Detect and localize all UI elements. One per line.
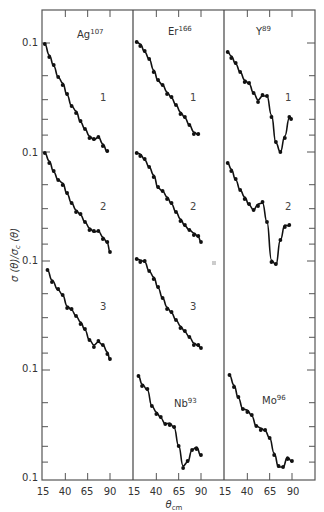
label-mo96: Mo96 <box>262 394 286 406</box>
data-point <box>283 136 287 140</box>
data-point <box>43 151 47 155</box>
y-tick-label: 0.1 <box>22 37 38 48</box>
data-point <box>165 307 169 311</box>
panel-title-ag107: Ag107 <box>77 28 104 40</box>
data-point <box>70 201 74 205</box>
data-point <box>137 374 141 378</box>
data-point <box>152 175 156 179</box>
panel-title-y89: Y89 <box>255 25 271 37</box>
data-point <box>165 92 169 96</box>
data-point <box>92 137 96 141</box>
y-axis-title: σ (θ)/σc (θ) <box>9 228 22 282</box>
y-tick-label: 0.1 <box>22 363 38 374</box>
data-point <box>256 100 260 104</box>
data-point <box>289 117 293 121</box>
data-point <box>74 111 78 115</box>
data-point <box>143 157 147 161</box>
data-point <box>245 410 249 414</box>
data-point <box>50 280 54 284</box>
curve-number: 1 <box>285 92 291 103</box>
data-point <box>192 233 196 237</box>
data-point <box>135 257 139 261</box>
data-point <box>177 444 181 448</box>
x-tick-label: 40 <box>241 486 254 497</box>
data-point <box>88 338 92 342</box>
label-nb93: Nb93 <box>174 397 197 409</box>
data-point <box>150 404 154 408</box>
y-tick-label: 0.1 <box>22 255 38 266</box>
data-point <box>161 83 165 87</box>
x-tick-label: 65 <box>81 486 94 497</box>
data-point <box>170 310 174 314</box>
data-point <box>174 210 178 214</box>
data-point <box>143 49 147 53</box>
x-tick-label: 90 <box>104 486 117 497</box>
data-point <box>179 326 183 330</box>
data-point <box>165 197 169 201</box>
data-point <box>79 322 83 326</box>
data-point <box>92 345 96 349</box>
data-point <box>283 225 287 229</box>
data-point <box>65 92 69 96</box>
data-point <box>88 136 92 140</box>
data-point <box>52 63 56 67</box>
data-point <box>74 314 78 318</box>
data-point <box>56 287 60 291</box>
data-point <box>199 453 203 457</box>
data-curves <box>43 40 294 470</box>
data-point <box>65 191 69 195</box>
y-tick-label: 0.1 <box>22 147 38 158</box>
fit-curve <box>47 270 110 360</box>
data-point <box>179 112 183 116</box>
data-point <box>143 259 147 263</box>
data-point <box>140 384 144 388</box>
data-point <box>83 327 87 331</box>
curve-number: 1 <box>190 92 196 103</box>
data-point <box>147 57 151 61</box>
data-point <box>152 70 156 74</box>
data-point <box>252 208 256 212</box>
data-point <box>259 428 263 432</box>
data-point <box>229 56 233 60</box>
data-point <box>187 123 191 127</box>
data-point <box>252 91 256 95</box>
data-point <box>172 425 176 429</box>
data-point <box>154 412 158 416</box>
data-point <box>247 81 251 85</box>
curve-number: 3 <box>100 301 106 312</box>
data-point <box>174 318 178 322</box>
data-point <box>147 269 151 273</box>
data-point <box>187 228 191 232</box>
data-point <box>170 201 174 205</box>
data-point <box>108 250 112 254</box>
data-point <box>105 352 109 356</box>
data-point <box>232 385 236 389</box>
data-point <box>187 335 191 339</box>
data-point <box>226 161 230 165</box>
plot-frame <box>42 10 315 480</box>
data-point <box>108 357 112 361</box>
data-point <box>181 466 185 470</box>
data-point <box>186 459 190 463</box>
data-point <box>247 202 251 206</box>
x-tick-label: 40 <box>59 486 72 497</box>
data-point <box>138 154 142 158</box>
data-point <box>43 42 47 46</box>
data-point <box>168 423 172 427</box>
data-point <box>52 169 56 173</box>
data-point <box>199 240 203 244</box>
data-point <box>101 343 105 347</box>
data-point <box>241 407 245 411</box>
data-point <box>270 115 274 119</box>
data-point <box>195 447 199 451</box>
x-tick-label: 15 <box>128 486 141 497</box>
data-point <box>272 453 276 457</box>
data-point <box>250 413 254 417</box>
data-point <box>79 119 83 123</box>
data-point <box>47 161 51 165</box>
data-point <box>286 457 290 461</box>
data-point <box>46 268 50 272</box>
data-point <box>265 94 269 98</box>
data-point <box>74 210 78 214</box>
data-point <box>61 83 65 87</box>
